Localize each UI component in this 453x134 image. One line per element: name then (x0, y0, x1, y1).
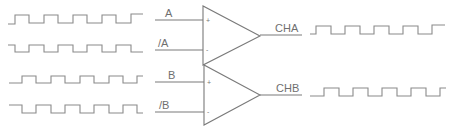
label-chb: CHB (276, 82, 299, 94)
label-a: A (165, 7, 173, 19)
label-b: B (168, 69, 175, 81)
comparator-b: + - B /B CHB (155, 65, 302, 125)
encoder-receiver-diagram: + - A /A CHA + - B /B CHB (0, 0, 453, 134)
amplifier-triangle-a (203, 6, 260, 65)
waveform-a (8, 14, 143, 24)
label-cha: CHA (275, 22, 299, 34)
label-a-inverted: /A (158, 37, 169, 49)
waveform-b-inverted (9, 105, 143, 113)
waveform-cha (310, 25, 445, 34)
waveform-b (9, 76, 143, 83)
waveform-chb (310, 88, 446, 96)
label-b-inverted: /B (159, 99, 169, 111)
amplifier-triangle-b (204, 65, 260, 125)
comparator-a: + - A /A CHA (155, 6, 302, 65)
pin-plus-a: + (206, 17, 210, 24)
waveform-a-inverted (8, 45, 143, 52)
pin-plus-b: + (207, 79, 211, 86)
